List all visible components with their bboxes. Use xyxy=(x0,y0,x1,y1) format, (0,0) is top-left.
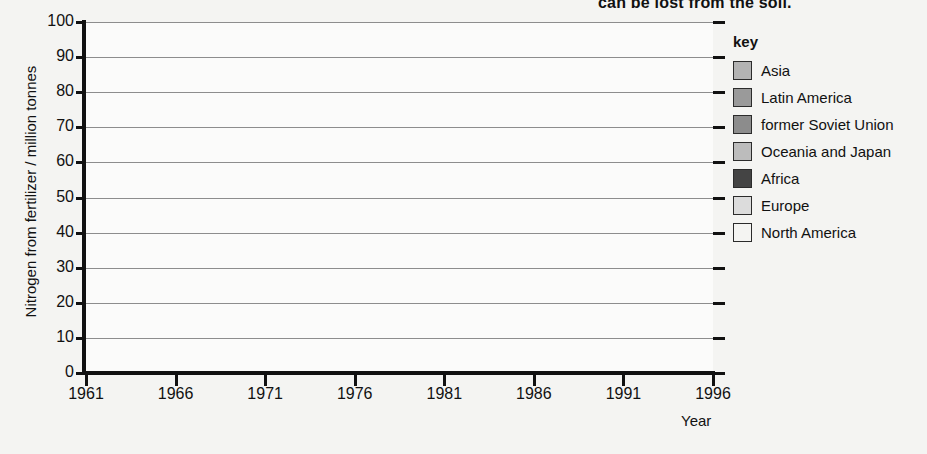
y-tick xyxy=(76,21,86,24)
y-tick-label: 70 xyxy=(8,118,74,134)
gridline xyxy=(86,198,713,199)
y-tick-right xyxy=(713,126,725,129)
gridline xyxy=(86,233,713,234)
gridline xyxy=(86,268,713,269)
y-tick-label: 80 xyxy=(8,83,74,99)
legend-swatch-icon xyxy=(733,223,752,242)
x-tick-label: 1991 xyxy=(588,385,658,403)
gridline xyxy=(86,22,713,23)
x-tick-label: 1976 xyxy=(320,385,390,403)
chart-page: can be lost from the soil, Nitrogen from… xyxy=(0,0,927,454)
y-tick xyxy=(76,267,86,270)
y-tick-label: 10 xyxy=(8,329,74,345)
x-tick-label: 1996 xyxy=(678,385,748,403)
y-tick-right xyxy=(713,267,725,270)
legend-item[interactable]: Oceania and Japan xyxy=(733,138,927,165)
y-tick-label: 20 xyxy=(8,294,74,310)
x-tick-label: 1986 xyxy=(499,385,569,403)
y-tick-label: 60 xyxy=(8,153,74,169)
legend-item[interactable]: Africa xyxy=(733,165,927,192)
x-tick-label: 1981 xyxy=(409,385,479,403)
legend-item-label: Africa xyxy=(761,170,799,187)
y-tick-label: 0 xyxy=(8,364,74,380)
legend: key AsiaLatin Americaformer Soviet Union… xyxy=(733,33,927,246)
gridline xyxy=(86,92,713,93)
y-tick xyxy=(76,91,86,94)
legend-item-label: Asia xyxy=(761,62,790,79)
x-tick-label: 1961 xyxy=(51,385,121,403)
legend-title: key xyxy=(733,33,927,50)
y-tick-label: 100 xyxy=(8,13,74,29)
x-tick-label: 1971 xyxy=(230,385,300,403)
legend-item-label: Latin America xyxy=(761,89,852,106)
gridline xyxy=(86,303,713,304)
y-tick-right xyxy=(713,302,725,305)
x-tick-label: 1966 xyxy=(141,385,211,403)
gridline xyxy=(86,338,713,339)
legend-item[interactable]: Latin America xyxy=(733,84,927,111)
legend-item-label: former Soviet Union xyxy=(761,116,894,133)
legend-item[interactable]: former Soviet Union xyxy=(733,111,927,138)
legend-swatch-icon xyxy=(733,169,752,188)
legend-item[interactable]: North America xyxy=(733,219,927,246)
x-axis-title: Year xyxy=(681,412,711,429)
y-tick-right xyxy=(713,21,725,24)
gridline xyxy=(86,127,713,128)
legend-item-label: North America xyxy=(761,224,856,241)
y-tick-right xyxy=(713,161,725,164)
gridline xyxy=(86,57,713,58)
plot-area xyxy=(86,22,713,373)
y-tick xyxy=(76,161,86,164)
y-tick xyxy=(76,197,86,200)
legend-item[interactable]: Europe xyxy=(733,192,927,219)
legend-item[interactable]: Asia xyxy=(733,57,927,84)
y-tick-right xyxy=(713,56,725,59)
legend-item-label: Europe xyxy=(761,197,809,214)
gridline xyxy=(86,162,713,163)
legend-swatch-icon xyxy=(733,115,752,134)
legend-swatch-icon xyxy=(733,142,752,161)
x-axis-line xyxy=(84,371,715,375)
legend-swatch-icon xyxy=(733,61,752,80)
y-tick-label: 40 xyxy=(8,224,74,240)
legend-swatch-icon xyxy=(733,196,752,215)
y-tick xyxy=(76,232,86,235)
y-tick-right xyxy=(713,197,725,200)
legend-item-label: Oceania and Japan xyxy=(761,143,891,160)
y-tick xyxy=(76,337,86,340)
y-tick-label: 30 xyxy=(8,259,74,275)
y-tick xyxy=(76,302,86,305)
y-tick xyxy=(76,56,86,59)
y-tick-label: 50 xyxy=(8,189,74,205)
y-tick-right xyxy=(713,232,725,235)
y-tick xyxy=(76,126,86,129)
legend-swatch-icon xyxy=(733,88,752,107)
legend-items: AsiaLatin Americaformer Soviet UnionOcea… xyxy=(733,57,927,246)
title-fragment: can be lost from the soil, xyxy=(598,0,792,8)
y-tick-label: 90 xyxy=(8,48,74,64)
y-tick-right xyxy=(713,91,725,94)
y-tick-right xyxy=(713,337,725,340)
